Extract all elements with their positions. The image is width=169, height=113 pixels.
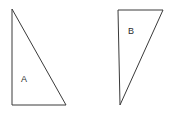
triangles-diagram: A B: [0, 0, 169, 113]
figure-canvas: A B: [0, 0, 169, 113]
triangle-b-label: B: [128, 26, 134, 36]
shape-group-triangle-b: B: [118, 10, 163, 105]
triangle-a-outline: [12, 9, 66, 105]
shape-group-triangle-a: A: [12, 9, 66, 105]
triangle-a-label: A: [21, 74, 27, 84]
triangle-b-outline: [118, 10, 163, 105]
